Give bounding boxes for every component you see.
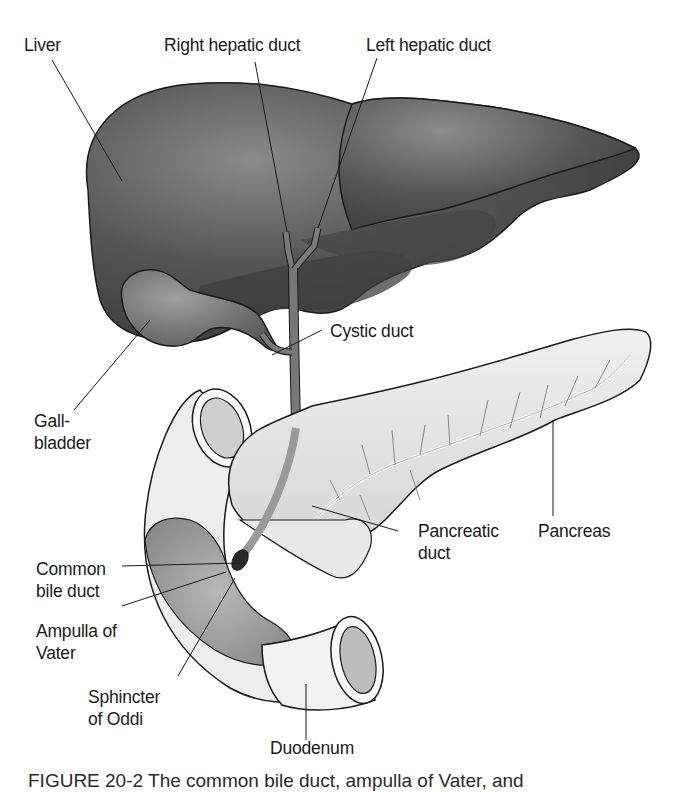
label-common-bile-duct: Common bile duct (36, 558, 106, 602)
figure-caption: FIGURE 20-2 The common bile duct, ampull… (28, 770, 524, 792)
label-gallbladder: Gall- bladder (34, 410, 91, 454)
label-pancreatic-duct: Pancreatic duct (418, 520, 499, 564)
label-right-hepatic-duct: Right hepatic duct (164, 34, 301, 56)
label-duodenum: Duodenum (270, 737, 354, 759)
label-ampulla-of-vater: Ampulla of Vater (36, 620, 117, 664)
label-left-hepatic-duct: Left hepatic duct (366, 34, 491, 56)
label-liver: Liver (24, 34, 61, 56)
label-pancreas: Pancreas (538, 520, 610, 542)
label-cystic-duct: Cystic duct (330, 320, 413, 342)
label-sphincter-of-oddi: Sphincter of Oddi (88, 686, 160, 730)
